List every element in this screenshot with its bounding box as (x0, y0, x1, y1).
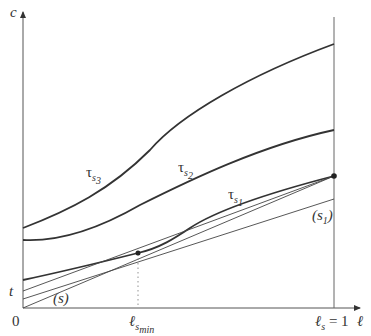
x-tick-ls-eq-1: ℓs = 1 (315, 314, 349, 332)
x-axis-label: ℓ (357, 314, 363, 329)
origin-label: 0 (12, 314, 20, 329)
tau-s2-label: τs2 (178, 160, 193, 181)
curve-tau-s2 (23, 130, 334, 240)
tau-s3-label: τs3 (86, 165, 101, 186)
t-label: t (9, 284, 13, 299)
point-tangent-lsmin (136, 251, 141, 256)
point-ls1 (331, 173, 337, 179)
line-t (23, 176, 334, 291)
curve-tau-s1 (23, 176, 334, 280)
curve-tau-s3 (23, 44, 334, 228)
y-axis-label: c (10, 5, 17, 20)
line-s1 (23, 199, 334, 299)
tau-s1-label: τs1 (228, 187, 243, 208)
line-s (23, 176, 334, 308)
x-tick-lsmin: ℓsmin (129, 314, 154, 335)
line-s-label: (s) (53, 291, 69, 306)
line-s1-label: (s1) (312, 208, 333, 226)
